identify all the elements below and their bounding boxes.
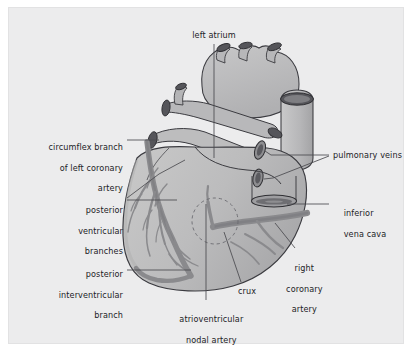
label-left-atrium: left atrium <box>175 30 253 40</box>
label-inferior-vena-cava: inferior vena cava <box>333 198 395 249</box>
label-line: ventricular <box>78 226 123 236</box>
label-line: posterior <box>86 205 123 215</box>
label-line: of left coronary <box>60 163 123 173</box>
label-line: atrioventricular <box>179 314 243 324</box>
label-line: branch <box>94 310 123 320</box>
label-line: inferior <box>344 208 374 218</box>
label-line: coronary <box>286 284 323 294</box>
label-right-coronary-artery: right coronary artery <box>271 253 327 324</box>
label-line: interventricular <box>59 290 123 300</box>
label-circumflex-branch: circumflex branch of left coronary arter… <box>17 132 123 203</box>
label-line: posterior <box>86 269 123 279</box>
label-crux: crux <box>231 286 263 296</box>
label-line: branches <box>85 246 123 256</box>
label-line: artery <box>98 183 123 193</box>
label-line: artery <box>292 304 317 314</box>
label-line: circumflex branch <box>49 142 123 152</box>
label-line: nodal artery <box>186 335 237 345</box>
label-posterior-interventricular-branch: posterior interventricular branch <box>19 259 123 330</box>
label-posterior-ventricular-branches: posterior ventricular branches <box>27 195 123 266</box>
figure-panel: left atrium circumflex branch of left co… <box>8 7 404 344</box>
label-atrioventricular-nodal-artery: atrioventricular nodal artery <box>157 304 255 351</box>
label-pulmonary-veins: pulmonary veins <box>333 150 412 160</box>
label-line: vena cava <box>344 229 387 239</box>
label-line: right <box>295 263 315 273</box>
